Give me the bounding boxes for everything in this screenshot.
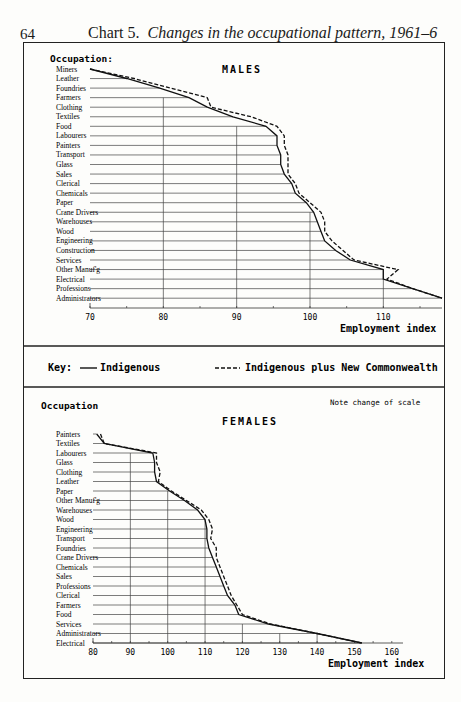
males-category-label: Electrical	[56, 275, 85, 284]
females-category-label: Farmers	[56, 601, 81, 610]
females-x-tick-label: 110	[198, 648, 213, 657]
females-ylabel: Occupation	[41, 400, 98, 411]
males-title: MALES	[222, 64, 262, 75]
females-category-label: Chemicals	[56, 563, 88, 572]
key-solid-label: Indigenous	[100, 362, 160, 373]
key-label: Key:	[48, 362, 72, 373]
females-category-label: Labourers	[56, 449, 86, 458]
females-category-label: Painters	[56, 430, 80, 439]
females-category-label: Transport	[56, 534, 86, 543]
males-ylabel: Occupation:	[50, 53, 113, 64]
males-x-tick-label: 100	[303, 313, 318, 322]
females-category-label: Warehouses	[56, 506, 92, 515]
females-category-label: Food	[56, 610, 72, 619]
males-category-label: Engineering	[56, 236, 93, 245]
females-x-tick-label: 100	[160, 648, 175, 657]
males-category-label: Professions	[56, 284, 91, 293]
males-x-tick-label: 80	[159, 313, 169, 322]
males-category-label: Farmers	[56, 93, 81, 102]
females-x-tick-label: 120	[235, 648, 250, 657]
females-category-label: Services	[56, 620, 81, 629]
males-category-label: Administrators	[56, 294, 101, 303]
males-category-label: Textiles	[56, 112, 80, 121]
females-category-label: Paper	[56, 487, 74, 496]
females-category-label: Professions	[56, 582, 91, 591]
males-category-label: Glass	[56, 160, 73, 169]
females-category-label: Crane Drivers	[56, 553, 98, 562]
males-x-tick-label: 110	[376, 313, 391, 322]
females-category-label: Wood	[56, 515, 74, 524]
females-category-label: Electrical	[56, 639, 85, 648]
males-category-label: Leather	[56, 74, 79, 83]
females-x-tick-label: 150	[347, 648, 362, 657]
males-category-label: Foundries	[56, 84, 86, 93]
females-x-tick-label: 80	[88, 648, 98, 657]
females-category-label: Foundries	[56, 544, 86, 553]
males-x-tick-label: 90	[232, 313, 242, 322]
females-title: FEMALES	[222, 416, 278, 427]
males-category-label: Sales	[56, 170, 72, 179]
males-category-label: Crane Drivers	[56, 208, 98, 217]
males-x-tick-label: 70	[85, 313, 95, 322]
males-category-label: Transport	[56, 150, 86, 159]
females-x-tick-label: 130	[273, 648, 288, 657]
males-category-label: Painters	[56, 141, 80, 150]
females-category-label: Engineering	[56, 525, 93, 534]
males-category-label: Construction	[56, 246, 95, 255]
females-category-label: Sales	[56, 572, 72, 581]
females-xlabel: Employment index	[328, 658, 424, 669]
females-category-label: Clerical	[56, 591, 80, 600]
females-category-label: Glass	[56, 458, 73, 467]
males-category-label: Food	[56, 122, 72, 131]
females-category-label: Other Manuf'g	[56, 496, 100, 505]
females-category-label: Textiles	[56, 439, 80, 448]
males-category-label: Labourers	[56, 131, 86, 140]
females-category-label: Administrators	[56, 629, 101, 638]
chart-canvas: Key:IndigenousIndigenous plus New Common…	[0, 0, 461, 702]
males-category-label: Clerical	[56, 179, 80, 188]
males-category-label: Chemicals	[56, 189, 88, 198]
males-category-label: Services	[56, 256, 81, 265]
males-category-label: Warehouses	[56, 217, 92, 226]
key-dashed-label: Indigenous plus New Commonwealth	[245, 362, 438, 373]
females-category-label: Clothing	[56, 468, 83, 477]
scale-note: Note change of scale	[330, 398, 421, 407]
males-category-label: Paper	[56, 198, 74, 207]
males-category-label: Wood	[56, 227, 74, 236]
females-x-tick-label: 90	[126, 648, 136, 657]
females-x-tick-label: 140	[310, 648, 325, 657]
page: 64 Chart 5. Changes in the occupational …	[0, 0, 461, 702]
males-category-label: Other Manuf'g	[56, 265, 100, 274]
females-category-label: Leather	[56, 477, 79, 486]
males-category-label: Miners	[56, 65, 77, 74]
males-xlabel: Employment index	[340, 323, 436, 334]
males-category-label: Clothing	[56, 103, 83, 112]
females-x-tick-label: 160	[385, 648, 400, 657]
